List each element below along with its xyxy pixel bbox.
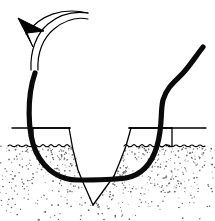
sediment-dot xyxy=(57,204,59,206)
sediment-dot xyxy=(130,191,132,193)
sediment-dot xyxy=(124,187,126,189)
sediment-dot xyxy=(194,158,196,160)
sediment-dot xyxy=(57,165,58,166)
sediment-dot xyxy=(189,202,190,203)
sediment-dot xyxy=(66,152,68,154)
sediment-dot xyxy=(36,171,37,172)
sediment-dot xyxy=(20,209,21,210)
sediment-dot xyxy=(141,158,142,159)
sediment-dot xyxy=(24,197,25,198)
sediment-dot xyxy=(26,186,27,187)
sediment-dot xyxy=(41,197,42,198)
sediment-dot xyxy=(44,195,45,196)
sediment-dot xyxy=(63,150,64,151)
sediment-dot xyxy=(165,165,167,167)
sediment-dot xyxy=(170,158,171,159)
sediment-dot xyxy=(11,162,12,163)
sediment-dot xyxy=(6,147,7,148)
sediment-dot xyxy=(61,155,63,157)
sediment-dot xyxy=(1,200,3,202)
sediment-dot xyxy=(127,153,128,154)
sediment-dot xyxy=(47,150,49,152)
sediment-dot xyxy=(27,180,29,182)
sediment-dot xyxy=(202,148,204,150)
sediment-dot xyxy=(69,166,70,167)
sediment-dot xyxy=(165,150,166,151)
sediment-dot xyxy=(52,190,53,191)
sediment-dot xyxy=(35,202,36,203)
sediment-dot xyxy=(58,157,59,158)
sediment-dot xyxy=(197,148,199,150)
sediment-dot xyxy=(211,164,213,166)
sediment-dot xyxy=(61,156,63,158)
sediment-dot xyxy=(169,182,171,184)
sediment-dot xyxy=(16,159,17,160)
sediment-dot xyxy=(135,215,136,216)
sediment-dot xyxy=(2,186,4,188)
sediment-dot xyxy=(122,214,123,215)
sediment-dot xyxy=(80,215,82,217)
sediment-dot xyxy=(109,196,111,198)
sediment-dot xyxy=(64,159,65,160)
sediment-dot xyxy=(124,181,125,182)
sediment-dot xyxy=(157,174,158,175)
sediment-dot xyxy=(59,158,60,159)
sediment-dot xyxy=(199,157,201,159)
sediment-dot xyxy=(159,186,160,187)
sediment-dot xyxy=(159,150,160,151)
sediment-dot xyxy=(29,163,30,164)
sediment-dot xyxy=(174,191,176,193)
sediment-dot xyxy=(204,150,205,151)
sediment-dot xyxy=(179,181,180,182)
sediment-dot xyxy=(133,186,134,187)
sediment-dot xyxy=(32,173,34,175)
sediment-dot xyxy=(78,186,80,188)
sediment-dot xyxy=(184,160,185,161)
sediment-dot xyxy=(184,191,185,192)
sediment-dot xyxy=(168,159,169,160)
sediment-dot xyxy=(157,160,158,161)
sediment-dot xyxy=(97,207,98,208)
sediment-dot xyxy=(211,188,213,190)
sediment-dot xyxy=(141,187,142,188)
sediment-dot xyxy=(121,216,122,217)
sediment-dot xyxy=(131,196,132,197)
sediment-dot xyxy=(129,187,130,188)
sediment-dot xyxy=(48,174,49,175)
sediment-dot xyxy=(209,205,211,207)
sediment-dot xyxy=(59,159,60,160)
sediment-dot xyxy=(185,193,186,194)
sediment-dot xyxy=(208,186,209,187)
sediment-dot xyxy=(16,156,18,158)
sediment-dot xyxy=(61,196,62,197)
sediment-dot xyxy=(28,148,29,149)
sediment-dot xyxy=(144,193,145,194)
sediment-dot xyxy=(67,191,69,193)
sediment-dot xyxy=(193,148,194,149)
sediment-dot xyxy=(210,151,211,152)
sediment-dot xyxy=(28,168,29,169)
sediment-dot xyxy=(15,149,17,151)
sediment-dot xyxy=(101,213,103,215)
sediment-dot xyxy=(71,165,73,167)
sediment-dot xyxy=(178,150,180,152)
sediment-dot xyxy=(145,188,146,189)
sediment-dot xyxy=(204,161,205,162)
sediment-dot xyxy=(64,153,66,155)
sediment-dot xyxy=(48,147,49,148)
sediment-dot xyxy=(62,164,63,165)
sediment-dot xyxy=(120,207,121,208)
sediment-dot xyxy=(117,170,118,171)
sediment-dot xyxy=(50,148,51,149)
sediment-dot xyxy=(64,148,65,149)
sediment-dot xyxy=(10,174,11,175)
sediment-dot xyxy=(138,206,139,207)
sediment-dot xyxy=(145,201,146,202)
sediment-dot xyxy=(19,164,20,165)
sediment-dot xyxy=(23,183,25,185)
sediment-dot xyxy=(80,219,81,220)
sediment-dot xyxy=(178,157,180,159)
sediment-dot xyxy=(28,194,29,195)
sediment-dot xyxy=(22,182,23,183)
sediment-dot xyxy=(38,219,40,221)
